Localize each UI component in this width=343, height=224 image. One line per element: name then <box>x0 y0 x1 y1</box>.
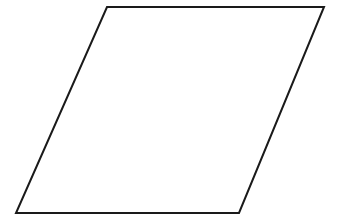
diagram-canvas <box>0 0 343 224</box>
parallelogram-shape <box>16 7 324 213</box>
